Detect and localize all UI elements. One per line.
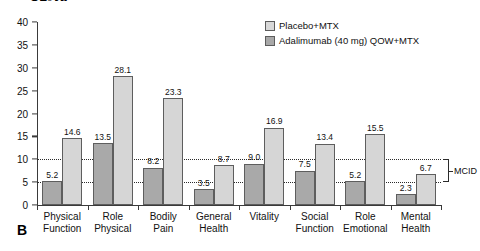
bar-value-label: 15.5 — [367, 123, 384, 133]
bar-value-label: 9.0 — [248, 152, 260, 162]
y-tick-label: 30 — [4, 62, 28, 73]
y-tick-label: 5 — [4, 177, 28, 188]
panel-letter: B — [17, 222, 27, 238]
category-label-line: Social — [296, 211, 334, 223]
mcid-label: MCID — [454, 166, 477, 176]
figure-title-truncated: SF-36 — [30, 0, 68, 1]
category-label-line: Mental — [401, 211, 431, 223]
bar-adalimumab — [62, 138, 82, 205]
bar-value-label: 13.5 — [94, 132, 111, 142]
bar-adalimumab — [416, 174, 436, 205]
bar-placebo — [295, 171, 315, 205]
category-label: RolePhysical — [94, 211, 131, 234]
category-label-line: Emotional — [343, 223, 387, 235]
mcid-bracket-tick — [449, 171, 453, 172]
category-label-line: Role — [343, 211, 387, 223]
x-tick-mark — [391, 205, 392, 210]
x-tick-mark — [441, 205, 442, 210]
bar-value-label: 23.3 — [165, 87, 182, 97]
bar-placebo — [42, 181, 62, 205]
bar-value-label: 2.3 — [400, 183, 412, 193]
x-tick-mark — [138, 205, 139, 210]
x-tick-mark — [37, 205, 38, 210]
bar-value-label: 5.2 — [349, 170, 361, 180]
bar-placebo — [194, 189, 214, 205]
category-label-line: Physical — [94, 223, 131, 235]
bar-placebo — [93, 143, 113, 205]
bar-adalimumab — [365, 134, 385, 205]
y-tick-label: 10 — [4, 154, 28, 165]
category-label-line: Function — [296, 223, 334, 235]
category-label-line: Function — [43, 223, 81, 235]
category-label-line: Pain — [150, 223, 177, 235]
bar-adalimumab — [163, 98, 183, 205]
sf36-bar-chart-figure: SF-36 Placebo+MTX Adalimumab (40 mg) QOW… — [0, 0, 480, 251]
y-tick-label: 15 — [4, 131, 28, 142]
x-tick-mark — [290, 205, 291, 210]
bar-placebo — [244, 164, 264, 205]
bar-value-label: 8.2 — [147, 156, 159, 166]
category-label-line: Bodily — [150, 211, 177, 223]
bar-adalimumab — [264, 128, 284, 205]
bar-value-label: 16.9 — [266, 116, 283, 126]
category-label: PhysicalFunction — [43, 211, 81, 234]
category-label-line: Role — [94, 211, 131, 223]
x-tick-mark — [239, 205, 240, 210]
y-tick-label: 35 — [4, 39, 28, 50]
category-label: MentalHealth — [401, 211, 431, 234]
bar-adalimumab — [214, 165, 234, 205]
bar-value-label: 3.5 — [198, 178, 210, 188]
x-tick-mark — [189, 205, 190, 210]
bar-placebo — [143, 168, 163, 206]
bar-value-label: 6.7 — [420, 163, 432, 173]
category-label: GeneralHealth — [196, 211, 232, 234]
category-label-line: Health — [401, 223, 431, 235]
bar-placebo — [345, 181, 365, 205]
bar-value-label: 13.4 — [316, 132, 333, 142]
category-label-line: Physical — [43, 211, 81, 223]
category-label-line: Vitality — [250, 211, 279, 223]
bar-value-label: 14.6 — [64, 127, 81, 137]
category-label: Vitality — [250, 211, 279, 223]
bar-value-label: 8.7 — [218, 154, 230, 164]
bar-adalimumab — [113, 76, 133, 205]
category-label-line: General — [196, 211, 232, 223]
plot-area: 5.214.613.528.18.223.33.58.79.016.97.513… — [37, 22, 441, 205]
bar-value-label: 5.2 — [46, 170, 58, 180]
bar-adalimumab — [315, 144, 335, 205]
y-tick-label: 25 — [4, 85, 28, 96]
y-tick-label: 40 — [4, 17, 28, 28]
bar-value-label: 7.5 — [299, 159, 311, 169]
bar-placebo — [396, 194, 416, 205]
y-tick-label: 0 — [4, 200, 28, 211]
category-label-line: Health — [196, 223, 232, 235]
category-label: RoleEmotional — [343, 211, 387, 234]
x-tick-mark — [88, 205, 89, 210]
x-tick-mark — [340, 205, 341, 210]
category-label: BodilyPain — [150, 211, 177, 234]
y-tick-label: 20 — [4, 108, 28, 119]
bar-value-label: 28.1 — [114, 65, 131, 75]
category-label: SocialFunction — [296, 211, 334, 234]
